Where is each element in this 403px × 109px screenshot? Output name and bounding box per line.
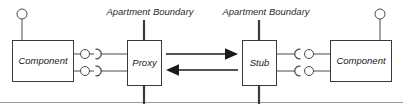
apartment-boundary-label-left: Apartment Boundary bbox=[105, 6, 194, 17]
component-diagram-canvas: Apartment Boundary Apartment Boundary Co… bbox=[0, 0, 403, 109]
left-lower-connector-group[interactable] bbox=[73, 66, 127, 76]
provided-interface-lollipop-icon[interactable] bbox=[305, 67, 314, 76]
provided-interface-lollipop-icon[interactable] bbox=[17, 9, 27, 19]
proxy-label: Proxy bbox=[132, 57, 158, 68]
stub-group[interactable]: Stub bbox=[243, 41, 277, 86]
provided-interface-lollipop-icon[interactable] bbox=[375, 9, 385, 19]
proxy-group[interactable]: Proxy bbox=[128, 41, 162, 86]
required-interface-socket-icon[interactable] bbox=[295, 49, 301, 59]
provided-interface-lollipop-icon[interactable] bbox=[81, 67, 90, 76]
right-component-group[interactable]: Component bbox=[331, 41, 392, 82]
right-component-label: Component bbox=[336, 55, 385, 66]
left-component-group[interactable]: Component bbox=[13, 41, 74, 82]
required-interface-socket-icon[interactable] bbox=[96, 49, 102, 59]
provided-interface-lollipop-icon[interactable] bbox=[81, 50, 90, 59]
left-component-label: Component bbox=[18, 55, 67, 66]
proxy-to-stub-arrow[interactable] bbox=[166, 48, 238, 60]
arrow-head-right-icon bbox=[225, 48, 238, 60]
stub-to-proxy-arrow[interactable] bbox=[166, 64, 238, 76]
stub-label: Stub bbox=[250, 57, 270, 68]
apartment-boundary-label-right: Apartment Boundary bbox=[221, 6, 310, 17]
left-upper-connector-group[interactable] bbox=[73, 49, 127, 59]
arrow-head-left-icon bbox=[166, 64, 179, 76]
right-component-top-interface[interactable] bbox=[375, 9, 385, 40]
provided-interface-lollipop-icon[interactable] bbox=[305, 50, 314, 59]
required-interface-socket-icon[interactable] bbox=[96, 66, 102, 76]
required-interface-socket-icon[interactable] bbox=[295, 66, 301, 76]
right-upper-connector-group[interactable] bbox=[276, 49, 330, 59]
right-lower-connector-group[interactable] bbox=[276, 66, 330, 76]
diagram-svg: Apartment Boundary Apartment Boundary Co… bbox=[0, 0, 403, 109]
left-component-top-interface[interactable] bbox=[17, 9, 27, 40]
